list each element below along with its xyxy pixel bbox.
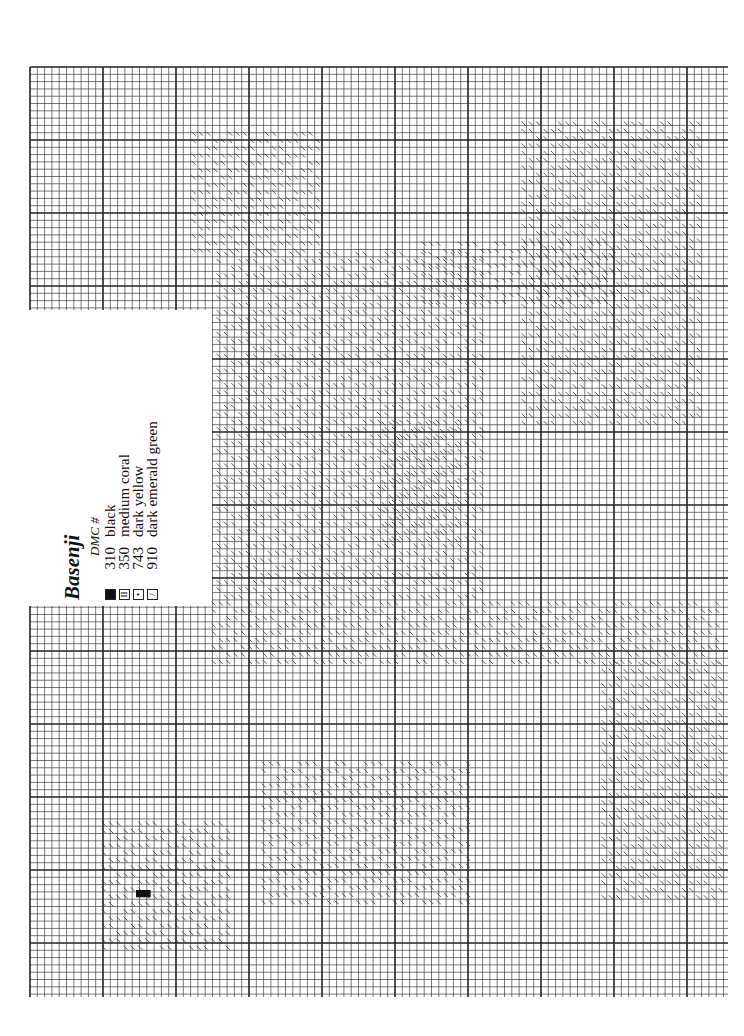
- cross-stitch-chart: [0, 0, 744, 1036]
